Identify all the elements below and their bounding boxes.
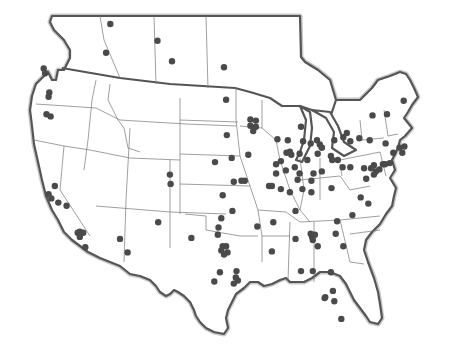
location-dot: Quebec [384, 111, 390, 117]
location-dot: New Mexico [155, 219, 161, 225]
location-dot: Alabama [292, 236, 298, 242]
location-dot: Indiana [292, 164, 298, 170]
location-dot: Ontario [369, 112, 375, 118]
location-dot: Kansas [220, 192, 226, 198]
location-dot: Delaware [371, 171, 377, 177]
location-dot: Manitoba [221, 64, 227, 70]
location-dot: Florida [321, 295, 327, 301]
location-dot: Nebraska [229, 155, 235, 161]
location-dot: Illinois [273, 170, 279, 176]
location-dot: Ohio [335, 157, 341, 163]
location-dot: New York [347, 138, 353, 144]
location-dot: Florida [331, 298, 337, 304]
location-dot: Indiana [296, 151, 302, 157]
location-dot: North Dakota [223, 97, 229, 103]
map: British ColumbiaBritish ColumbiaAlbertaA… [0, 0, 470, 354]
location-dot: West Virginia [328, 185, 334, 191]
location-dot: New York [356, 135, 362, 141]
location-dot: South Dakota [224, 132, 230, 138]
location-dot: Ohio [329, 157, 335, 163]
location-dot: Arizona [117, 236, 123, 242]
location-dot: Illinois [278, 186, 284, 192]
location-dot: Kentucky [308, 189, 314, 195]
location-dot: Maryland [363, 176, 369, 182]
location-dot: Ontario [319, 144, 325, 150]
location-dot: Washington [45, 94, 51, 100]
location-dot: Texas [223, 243, 229, 249]
location-dot: Ontario [331, 137, 337, 143]
location-dot: Michigan [300, 138, 306, 144]
location-dot: Texas [215, 232, 221, 238]
location-dot: Pennsylvania [339, 164, 345, 170]
location-dot: Tennessee [292, 208, 298, 214]
location-dot: Rhode Island [399, 150, 405, 156]
location-dot: North Carolina [349, 212, 355, 218]
location-dot: Ohio [319, 168, 325, 174]
location-dot: New York [387, 160, 393, 166]
location-dot: Florida [298, 268, 304, 274]
location-dot: Indiana [304, 157, 310, 163]
location-dot: Texas [231, 280, 237, 286]
location-dot: Tennessee [270, 219, 276, 225]
location-dot: Minnesota [253, 117, 259, 123]
location-dot: Georgia [315, 243, 321, 249]
location-dot: Colorado [167, 181, 173, 187]
location-dot: Florida [338, 316, 344, 322]
location-dot: Colorado [167, 171, 173, 177]
location-dot: Indiana [287, 189, 293, 195]
location-dot: Florida [330, 288, 336, 294]
location-dot: Michigan [298, 124, 304, 130]
location-dot: Mississippi [269, 248, 275, 254]
location-dot: New York [382, 140, 388, 146]
location-dot: Wisconsin [285, 137, 291, 143]
location-dot: Florida [310, 268, 316, 274]
location-dot: Michigan [314, 137, 320, 143]
location-dot: Indiana [294, 177, 300, 183]
location-dot: North Carolina [334, 218, 340, 224]
location-dot: Oklahoma [218, 215, 224, 221]
location-dot: California [77, 234, 83, 240]
location-dot: California [55, 199, 61, 205]
location-dot: South Carolina [333, 231, 339, 237]
location-dot: Texas [211, 278, 217, 284]
location-dot: Georgia [310, 237, 316, 243]
location-dot: Missouri [266, 183, 272, 189]
location-dot: Saskatchewan [154, 38, 160, 44]
location-dot: Arkansas [254, 223, 260, 229]
location-dot: Texas [221, 251, 227, 257]
location-dot: Ohio [315, 151, 321, 157]
location-dot: Kansas [231, 179, 237, 185]
location-dot: Kentucky [299, 186, 305, 192]
location-dot: California [63, 203, 69, 209]
location-dot: Ohio [308, 178, 314, 184]
location-dot: Oklahoma [229, 208, 235, 214]
location-dot: Virginia [365, 200, 371, 206]
location-dot: Missouri [242, 178, 248, 184]
location-dot: Oklahoma [215, 224, 221, 230]
location-dot: New Jersey [376, 166, 382, 172]
location-dot: Illinois [283, 167, 289, 173]
location-dot: Illinois [278, 158, 284, 164]
location-dot: Arizona [124, 249, 130, 255]
location-dot: Iowa [245, 152, 251, 158]
location-dot: Pennsylvania [347, 164, 353, 170]
location-dot: California [82, 244, 88, 250]
location-dot: California [52, 183, 58, 189]
location-dot: Alberta [103, 50, 109, 56]
location-dot: Ohio [310, 170, 316, 176]
location-dot: British Columbia [42, 70, 48, 76]
location-dot: South Carolina [340, 243, 346, 249]
location-dot: New York [367, 137, 373, 143]
location-dot: Pennsylvania [361, 165, 367, 171]
location-dot: Oregon [47, 113, 53, 119]
location-dot: Connecticut [390, 150, 396, 156]
location-dot: Florida [328, 269, 334, 275]
location-dot: Texas [233, 268, 239, 274]
location-dot: Minnesota [247, 116, 253, 122]
location-dot: Texas [217, 269, 223, 275]
location-dot: Alberta [107, 21, 113, 27]
location-dot: Virginia [358, 194, 364, 200]
location-dot: Indiana [288, 152, 294, 158]
landmass [30, 16, 418, 334]
location-dot: Pennsylvania [371, 162, 377, 168]
